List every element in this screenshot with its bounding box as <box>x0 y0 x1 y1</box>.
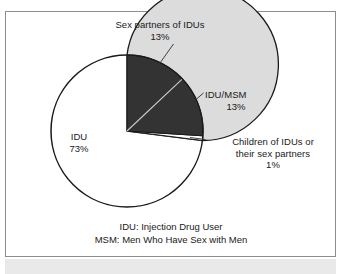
slice-label-children-line2: their sex partners <box>207 148 339 160</box>
slice-label-children-line1: Children of IDUs or <box>232 136 314 147</box>
footnote-line-idu: IDU: Injection Drug User <box>16 220 326 233</box>
slice-label-sex-partners: Sex partners of IDUs 13% <box>84 19 236 42</box>
bottom-gray-band <box>5 259 336 274</box>
slice-label-idu-percent: 73% <box>48 143 110 155</box>
slice-label-idu: IDU 73% <box>48 131 110 154</box>
slice-label-idu-msm-percent: 13% <box>205 101 267 113</box>
footnote-line-msm: MSM: Men Who Have Sex with Men <box>16 233 326 246</box>
slice-label-idu-msm: IDU/MSM 13% <box>205 89 291 112</box>
pie-chart-figure: Sex partners of IDUs 13% IDU/MSM 13% Chi… <box>0 0 343 274</box>
slice-label-children-percent: 1% <box>207 159 339 171</box>
slice-label-idu-text: IDU <box>71 131 88 142</box>
slice-label-sex-partners-percent: 13% <box>84 31 236 43</box>
slice-label-idu-msm-text: IDU/MSM <box>205 89 247 100</box>
slice-label-children: Children of IDUs or their sex partners 1… <box>207 136 339 171</box>
chart-footnote: IDU: Injection Drug User MSM: Men Who Ha… <box>16 220 326 246</box>
slice-label-sex-partners-text: Sex partners of IDUs <box>115 19 204 30</box>
